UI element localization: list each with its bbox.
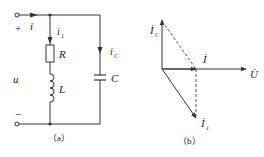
i1-phasor-subscript: 1 <box>206 125 209 131</box>
terminal-bottom <box>15 122 19 126</box>
i-phasor-label: İ <box>202 53 208 65</box>
voltage-u-label: u <box>13 73 19 85</box>
caption-b: （b） <box>178 136 201 146</box>
inductor-l <box>50 74 54 102</box>
current-i-label: i <box>30 20 33 32</box>
current-ic-subscript: C <box>114 53 119 59</box>
u-phasor-label: U̇ <box>250 68 259 80</box>
minus-label: − <box>15 108 21 120</box>
inductor-label: L <box>58 83 65 95</box>
resistor-label: R <box>58 48 66 60</box>
terminal-top <box>15 13 19 17</box>
dashed-ic-to-i <box>162 21 196 69</box>
phasor-diagram-b: İ C İ U̇ İ 1 （b） <box>149 20 259 146</box>
current-i-arrow <box>30 13 38 18</box>
ic-phasor-subscript: C <box>155 32 160 38</box>
caption-a: （a） <box>48 133 70 143</box>
circuit-a: + i i 1 R u L i C C − （a） <box>13 13 119 144</box>
current-ic-label: i <box>110 46 113 57</box>
current-ic-arrow <box>98 47 103 54</box>
current-i1-subscript: 1 <box>61 33 64 39</box>
resistor-r <box>46 45 54 62</box>
capacitor-label: C <box>111 72 119 84</box>
plus-label: + <box>15 22 21 34</box>
current-i1-label: i <box>57 26 60 37</box>
diagram-canvas: + i i 1 R u L i C C − （a） İ C İ U̇ İ 1 （… <box>0 0 264 157</box>
phasor-i1 <box>162 69 196 118</box>
current-i1-arrow <box>48 37 53 44</box>
